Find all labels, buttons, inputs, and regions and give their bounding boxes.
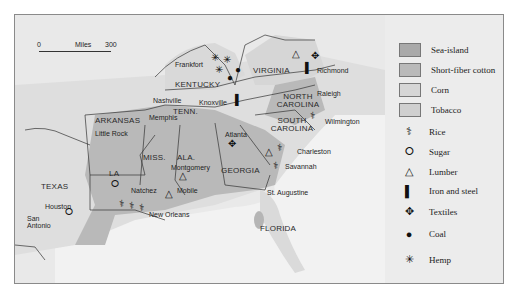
- coal-icon: ●: [227, 73, 233, 83]
- legend-item-rice: ⚕ Rice: [399, 125, 446, 138]
- iron-steel-icon: ▌: [235, 95, 242, 105]
- legend-item-lumber: △ Lumber: [399, 165, 458, 178]
- rice-icon: ⚕: [129, 201, 134, 211]
- legend-label: Coal: [429, 229, 446, 239]
- city-frankfort: Frankfort: [175, 61, 203, 68]
- legend-item-iron-steel: ▌ Iron and steel: [399, 185, 478, 197]
- legend-label: Hemp: [429, 255, 451, 265]
- city-savannah: Savannah: [285, 163, 317, 170]
- rice-icon: ⚕: [273, 161, 278, 171]
- state-louisiana: LA: [109, 170, 119, 178]
- city-st-augustine: St. Augustine: [267, 189, 308, 196]
- lumber-icon: △: [179, 171, 187, 181]
- city-charleston: Charleston: [297, 148, 331, 155]
- sugar-icon: ⭘: [399, 145, 419, 158]
- city-natchez: Natchez: [131, 187, 157, 194]
- state-mississippi: MISS.: [143, 154, 166, 162]
- corn-swatch: [399, 83, 421, 97]
- legend-label: Short-fiber cotton: [431, 65, 495, 75]
- coal-icon: ●: [235, 65, 241, 75]
- textiles-icon: ✥: [399, 205, 419, 218]
- scale-line: [39, 51, 111, 52]
- legend-item-hemp: ✳ Hemp: [399, 253, 451, 266]
- rice-icon: ⚕: [310, 111, 315, 121]
- state-north-carolina: NORTH CAROLINA: [273, 93, 323, 109]
- textiles-icon: ✥: [311, 51, 319, 61]
- rice-icon: ⚕: [119, 199, 124, 209]
- legend-label: Iron and steel: [429, 186, 478, 196]
- state-kentucky: KENTUCKY: [175, 81, 220, 89]
- scale-start: 0: [37, 41, 41, 48]
- city-atlanta: Atlanta: [225, 131, 247, 138]
- legend-label: Sugar: [429, 147, 450, 157]
- hemp-icon: ✳: [399, 253, 419, 266]
- city-san-antonio: San Antonio: [27, 215, 57, 229]
- state-alabama: ALA.: [177, 154, 195, 162]
- legend-item-tobacco: Tobacco: [399, 103, 461, 117]
- city-memphis: Memphis: [149, 114, 177, 121]
- legend-label: Rice: [429, 127, 446, 137]
- rice-icon: ⚕: [139, 203, 144, 213]
- textiles-icon: ✥: [228, 139, 236, 149]
- legend-item-corn: Corn: [399, 83, 449, 97]
- sea-island-swatch: [399, 43, 421, 57]
- hemp-icon: ✳: [223, 55, 231, 65]
- legend-item-sea-island: Sea-island: [399, 43, 469, 57]
- city-new-orleans: New Orleans: [149, 211, 189, 218]
- state-texas: TEXAS: [41, 183, 68, 191]
- lumber-icon: △: [292, 49, 300, 59]
- short-fiber-cotton-swatch: [399, 63, 421, 77]
- scale-unit: Miles: [75, 41, 91, 48]
- city-nashville: Nashville: [153, 97, 181, 104]
- state-arkansas: ARKANSAS: [95, 117, 140, 125]
- city-knoxville: Knoxville: [199, 99, 227, 106]
- state-virginia: VIRGINIA: [253, 67, 290, 75]
- sugar-icon: ⭘: [65, 207, 73, 217]
- hemp-icon: ✳: [215, 65, 223, 75]
- legend: Sea-island Short-fiber cotton Corn Tobac…: [385, 15, 503, 283]
- city-mobile: Mobile: [177, 187, 198, 194]
- legend-item-textiles: ✥ Textiles: [399, 205, 457, 218]
- hemp-icon: ✳: [211, 53, 219, 63]
- city-little-rock: Little Rock: [95, 130, 128, 137]
- iron-steel-icon: ▌: [305, 63, 312, 73]
- lumber-icon: △: [165, 189, 173, 199]
- lumber-icon: △: [265, 147, 273, 157]
- city-wilmington: Wilmington: [325, 118, 360, 125]
- city-montgomery: Montgomery: [171, 164, 210, 171]
- city-richmond: Richmond: [317, 67, 349, 74]
- legend-item-coal: ● Coal: [399, 228, 446, 240]
- sugar-icon: ⭘: [111, 179, 119, 189]
- state-florida: FLORIDA: [260, 225, 296, 233]
- legend-item-short-fiber-cotton: Short-fiber cotton: [399, 63, 495, 77]
- rice-icon: ⚕: [277, 143, 282, 153]
- map-frame: 0 Miles 300 KENTUCKY VIRGINIA NORTH CARO…: [14, 14, 504, 284]
- legend-label: Sea-island: [431, 45, 469, 55]
- legend-label: Textiles: [429, 207, 457, 217]
- legend-label: Corn: [431, 85, 449, 95]
- rice-icon: ⚕: [399, 125, 419, 138]
- legend-label: Lumber: [429, 167, 458, 177]
- state-georgia: GEORGIA: [221, 167, 260, 175]
- iron-steel-icon: ▌: [399, 185, 419, 197]
- legend-item-sugar: ⭘ Sugar: [399, 145, 450, 158]
- legend-label: Tobacco: [431, 105, 461, 115]
- city-raleigh: Raleigh: [317, 90, 341, 97]
- lumber-icon: △: [399, 165, 419, 178]
- coal-icon: ●: [399, 228, 419, 240]
- tobacco-swatch: [399, 103, 421, 117]
- scale-end: 300: [105, 41, 117, 48]
